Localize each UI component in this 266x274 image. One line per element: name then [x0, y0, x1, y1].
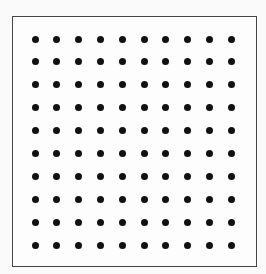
- grid-dot: [141, 81, 148, 88]
- grid-dot: [141, 104, 148, 111]
- grid-dot: [228, 81, 235, 88]
- grid-dot: [162, 242, 169, 249]
- grid-dot: [97, 150, 104, 157]
- grid-dot: [97, 242, 104, 249]
- grid-dot: [75, 173, 82, 180]
- grid-dot: [141, 150, 148, 157]
- grid-dot: [32, 81, 39, 88]
- grid-dot: [119, 196, 126, 203]
- grid-dot: [206, 150, 213, 157]
- grid-dot: [228, 127, 235, 134]
- grid-dot: [184, 242, 191, 249]
- grid-dot: [119, 173, 126, 180]
- grid-dot: [32, 173, 39, 180]
- grid-dot: [141, 127, 148, 134]
- grid-dot: [228, 219, 235, 226]
- grid-dot: [206, 173, 213, 180]
- grid-dot: [206, 219, 213, 226]
- grid-dot: [75, 36, 82, 43]
- grid-dot: [162, 36, 169, 43]
- grid-dot: [162, 219, 169, 226]
- grid-dot: [97, 173, 104, 180]
- grid-dot: [184, 219, 191, 226]
- grid-dot: [32, 150, 39, 157]
- grid-dot: [32, 219, 39, 226]
- grid-dot: [75, 242, 82, 249]
- grid-dot: [53, 242, 60, 249]
- grid-dot: [141, 242, 148, 249]
- grid-dot: [228, 104, 235, 111]
- grid-dot: [228, 173, 235, 180]
- grid-dot: [97, 219, 104, 226]
- grid-dot: [32, 127, 39, 134]
- grid-dot: [32, 104, 39, 111]
- grid-dot: [141, 173, 148, 180]
- grid-dot: [141, 219, 148, 226]
- grid-dot: [228, 196, 235, 203]
- dot-grid-frame: [12, 16, 257, 267]
- grid-dot: [141, 196, 148, 203]
- grid-dot: [97, 36, 104, 43]
- grid-dot: [119, 219, 126, 226]
- grid-dot: [32, 36, 39, 43]
- grid-dot: [206, 127, 213, 134]
- grid-dot: [184, 173, 191, 180]
- grid-dot: [141, 58, 148, 65]
- grid-dot: [119, 242, 126, 249]
- grid-dot: [184, 36, 191, 43]
- grid-dot: [75, 196, 82, 203]
- grid-dot: [184, 196, 191, 203]
- grid-dot: [228, 150, 235, 157]
- grid-dot: [228, 36, 235, 43]
- grid-dot: [119, 104, 126, 111]
- grid-dot: [206, 242, 213, 249]
- grid-dot: [119, 127, 126, 134]
- grid-dot: [32, 196, 39, 203]
- grid-dot: [75, 219, 82, 226]
- grid-dot: [32, 58, 39, 65]
- grid-dot: [228, 242, 235, 249]
- grid-dot: [53, 36, 60, 43]
- grid-dot: [206, 196, 213, 203]
- grid-dot: [119, 81, 126, 88]
- grid-dot: [32, 242, 39, 249]
- grid-dot: [53, 219, 60, 226]
- grid-dot: [206, 36, 213, 43]
- grid-dot: [141, 36, 148, 43]
- grid-dot: [97, 196, 104, 203]
- grid-dot: [97, 127, 104, 134]
- grid-dot: [119, 36, 126, 43]
- grid-dot: [119, 150, 126, 157]
